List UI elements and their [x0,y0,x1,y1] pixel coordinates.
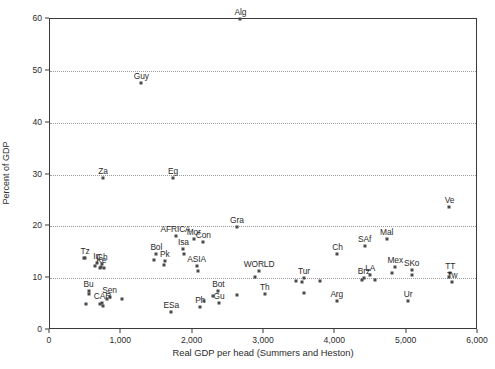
data-point-unlabeled-8 [106,297,109,300]
gridline-y-40 [50,123,476,124]
data-point-unlabeled-21 [318,280,321,283]
data-point-unlabeled-19 [300,280,303,283]
data-point-label-guy: Guy [134,72,149,80]
data-point-unlabeled-9 [121,297,124,300]
data-point-label-sko: SKo [404,259,420,267]
data-point-esa [170,310,173,313]
x-tick-label-1: 1,000 [110,335,132,345]
data-point-label-arg: Arg [330,290,343,298]
data-point-label-bu: Bu [83,279,93,287]
data-point-unlabeled-5 [85,303,88,306]
data-point-unlabeled-7 [102,304,105,307]
data-point-unlabeled-26 [448,275,451,278]
data-point-bu [87,289,90,292]
data-point-alg [239,18,242,21]
x-tick-mark-6 [477,329,478,333]
data-point-unlabeled-14 [203,299,206,302]
data-point-unlabeled-2 [98,266,101,269]
data-point-ph [199,305,202,308]
data-point-bol [155,253,158,256]
data-point-label-tz: Tz [80,247,89,255]
data-point-label-pk: Pk [160,250,170,258]
data-point-unlabeled-13 [196,270,199,273]
data-point-unlabeled-23 [374,278,377,281]
data-point-za [102,176,105,179]
data-point-label-ke: Ke [96,255,106,263]
data-point-tw [451,280,454,283]
data-point-arg [335,299,338,302]
data-point-label-ur: Ur [404,290,413,298]
data-point-guy [140,82,143,85]
data-point-gra [235,225,238,228]
scatter-chart-figure: Percent of GDP Real GDP per head (Summer… [0,0,495,369]
x-tick-label-0: 0 [47,335,52,345]
x-tick-label-3: 3,000 [252,335,274,345]
data-point-asia [195,265,198,268]
data-point-isa [182,248,185,251]
data-point-label-world: WORLD [244,260,275,268]
data-point-label-bot: Bot [212,280,224,288]
data-point-unlabeled-15 [212,295,215,298]
data-point-label-th: Th [260,283,270,291]
y-tick-label-30: 30 [32,169,46,179]
data-point-label-mex: Mex [387,256,403,264]
data-point-label-ch: Ch [332,242,343,250]
data-point-mex [394,266,397,269]
y-axis-label: Percent of GDP [1,141,11,204]
data-point-label-asia: ASIA [187,255,206,263]
data-point-label-ve: Ve [445,195,455,203]
y-tick-label-60: 60 [32,13,46,23]
data-point-unlabeled-12 [183,253,186,256]
data-point-unlabeled-4 [87,293,90,296]
data-point-unlabeled-25 [410,274,413,277]
data-point-world [258,270,261,273]
data-point-ve [448,205,451,208]
data-point-ur [407,299,410,302]
gridline-y-50 [50,71,476,72]
data-point-saf [363,244,366,247]
data-point-label-eg: Eg [168,166,178,174]
data-point-unlabeled-1 [93,265,96,268]
x-axis-label: Real GDP per head (Summers and Heston) [172,347,353,358]
data-point-label-esa: ESa [164,300,180,308]
data-point-sko [410,269,413,272]
data-point-unlabeled-11 [163,264,166,267]
data-point-mal [385,238,388,241]
data-point-gu [218,302,221,305]
x-tick-mark-0 [49,329,50,333]
data-point-mor [192,237,195,240]
data-point-con [202,241,205,244]
plot-area: AlgGuyVeZaEgGraAFRICAMorConMalSAfIsaBolC… [49,18,477,329]
data-point-unlabeled-16 [235,294,238,297]
data-point-label-gra: Gra [230,215,244,223]
y-tick-label-10: 10 [32,272,46,282]
data-point-label-con: Con [196,231,211,239]
x-tick-label-2: 2,000 [181,335,203,345]
data-point-label-mal: Mal [380,228,393,236]
x-tick-label-4: 4,000 [324,335,346,345]
data-point-unlabeled-20 [302,292,305,295]
data-point-unlabeled-10 [153,259,156,262]
data-point-africa [174,234,177,237]
data-point-unlabeled-17 [254,276,257,279]
data-point-unlabeled-24 [390,271,393,274]
gridline-y-10 [50,278,476,279]
gridline-y-30 [50,175,476,176]
data-point-th [263,293,266,296]
data-point-unlabeled-22 [360,278,363,281]
x-tick-label-5: 5,000 [395,335,417,345]
x-tick-mark-3 [263,329,264,333]
y-tick-label-40: 40 [32,117,46,127]
data-point-label-alg: Alg [235,8,247,16]
data-point-label-tur: Tur [298,266,310,274]
data-point-pk [163,260,166,263]
data-point-label-gu: Gu [214,292,225,300]
data-point-label-brz: Brz [358,267,370,275]
x-tick-mark-4 [334,329,335,333]
data-point-tur [302,276,305,279]
x-tick-mark-2 [191,329,192,333]
data-point-label-za: Za [98,166,108,174]
data-point-label-saf: SAf [358,234,371,242]
data-point-eg [172,176,175,179]
y-tick-label-0: 0 [37,324,46,334]
